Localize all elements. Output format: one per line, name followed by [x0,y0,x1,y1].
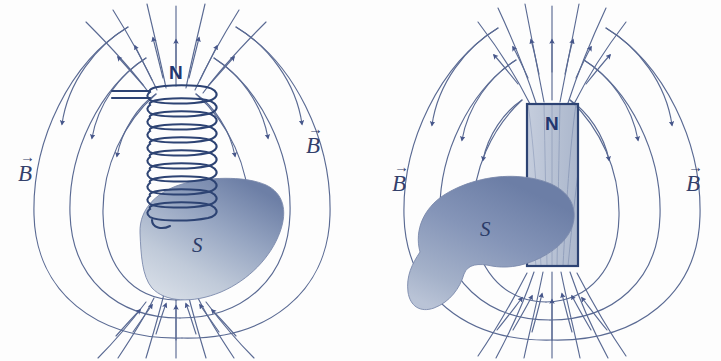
b-symbol: B [686,171,700,196]
right-panel-south-pole-label: S [480,217,491,242]
left-panel-north-pole-label: N [169,62,183,84]
b-symbol: B [18,161,32,186]
solenoid-coil [112,85,217,228]
right-panel-b-label-left: → B [392,164,408,195]
right-south-pole-blob [408,176,575,309]
figure-canvas: → B → B N S → B → B N S [0,0,721,361]
left-panel-b-label-left: → B [18,154,34,185]
left-panel-field-svg [0,0,721,361]
left-panel-south-pole-label: S [192,233,203,258]
b-symbol: B [306,133,320,158]
right-panel-north-pole-label: N [545,113,559,135]
b-symbol: B [392,171,406,196]
left-south-pole-blob [140,178,284,300]
right-panel-b-label-right: → B [686,164,702,195]
left-panel-b-label-right: → B [306,126,322,157]
